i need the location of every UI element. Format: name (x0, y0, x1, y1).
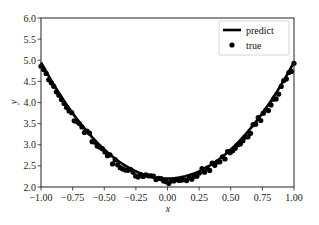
y-tick-label: 3.5 (24, 118, 37, 129)
y-tick-label: 3.0 (24, 139, 37, 150)
x-tick-label: 0.25 (190, 192, 208, 203)
legend-predict-label: predict (246, 25, 274, 36)
chart: −1.00−0.75−0.50−0.250.000.250.500.751.00… (0, 0, 319, 225)
x-axis-label: x (165, 203, 171, 214)
y-tick-label: 5.5 (24, 34, 37, 45)
y-tick-label: 4.0 (24, 97, 37, 108)
y-axis-label: y (8, 99, 19, 105)
y-tick-label: 2.0 (24, 182, 37, 193)
x-tick-label: −0.75 (61, 192, 84, 203)
x-tick-label: −1.00 (29, 192, 52, 203)
x-tick-label: 0.00 (159, 192, 177, 203)
x-tick-label: −0.50 (93, 192, 116, 203)
y-tick-label: 6.0 (24, 13, 37, 24)
y-axis-ticks: 2.02.53.03.54.04.55.05.56.0 (24, 13, 42, 193)
x-tick-label: 0.75 (254, 192, 272, 203)
x-tick-label: 1.00 (285, 192, 303, 203)
y-tick-label: 2.5 (24, 160, 37, 171)
y-tick-label: 4.5 (24, 76, 37, 87)
scatter-true-series (38, 61, 296, 186)
legend-true-dot-icon (229, 42, 234, 47)
x-tick-label: 0.50 (222, 192, 240, 203)
predict-line (41, 62, 294, 178)
legend: predict true (219, 21, 289, 55)
true-data-point (207, 168, 212, 173)
x-tick-label: −0.25 (124, 192, 147, 203)
y-tick-label: 5.0 (24, 55, 37, 66)
legend-true-label: true (246, 40, 262, 51)
x-axis-ticks: −1.00−0.75−0.50−0.250.000.250.500.751.00 (29, 187, 302, 203)
